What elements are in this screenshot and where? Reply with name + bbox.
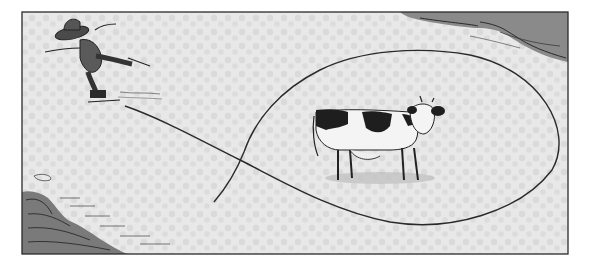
- frozen-pond: [22, 12, 568, 254]
- illustration: [0, 0, 596, 268]
